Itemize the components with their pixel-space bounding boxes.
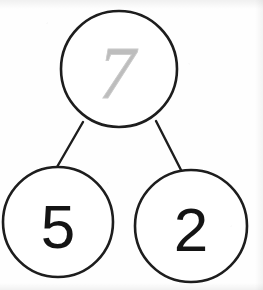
number-bond-diagram: 7 5 2 [0, 0, 263, 290]
part-left-value: 5 [41, 192, 75, 261]
part-right-value: 2 [174, 195, 208, 264]
number-bond-worksheet: 7 5 2 [0, 0, 263, 290]
whole-value: 7 [99, 32, 139, 114]
part-right-node[interactable]: 2 [135, 170, 247, 282]
part-left-node[interactable]: 5 [3, 167, 113, 277]
connector-group [57, 121, 181, 170]
whole-node[interactable]: 7 [61, 11, 177, 127]
connector-whole-to-left-part [57, 122, 83, 167]
connector-whole-to-right-part [156, 121, 181, 170]
